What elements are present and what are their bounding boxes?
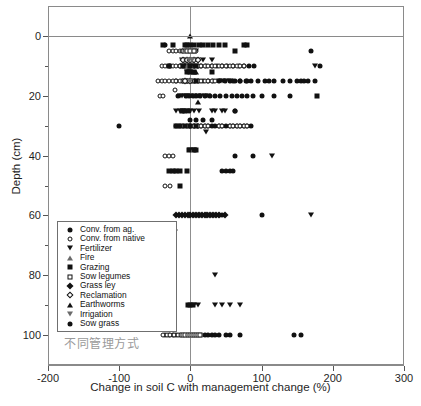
legend-marker-icon	[60, 281, 80, 290]
data-point	[212, 273, 218, 278]
data-point	[206, 123, 211, 128]
data-point	[201, 117, 206, 122]
data-point	[227, 303, 233, 308]
data-point	[259, 213, 264, 218]
legend-symbol	[66, 292, 73, 299]
data-point	[205, 93, 211, 98]
y-axis-tick	[43, 156, 48, 157]
data-point	[191, 48, 196, 53]
data-point	[252, 63, 257, 68]
legend-symbol	[67, 312, 73, 317]
legend-symbol	[68, 274, 73, 279]
data-point	[224, 93, 229, 98]
data-point	[184, 168, 189, 173]
legend-item[interactable]: Conv. from native	[60, 234, 173, 243]
legend-symbol	[67, 246, 73, 251]
y-axis-label: 0	[8, 30, 41, 42]
data-point	[203, 129, 209, 134]
data-point	[188, 123, 193, 128]
legend-item[interactable]: Sow grass	[60, 319, 173, 328]
data-point	[209, 57, 215, 62]
data-point	[172, 87, 177, 92]
data-point	[246, 63, 251, 68]
data-point	[161, 42, 166, 47]
data-point	[245, 78, 250, 83]
legend-symbol	[68, 265, 73, 270]
data-point	[212, 303, 218, 308]
data-point	[167, 63, 172, 68]
data-point	[212, 108, 218, 113]
data-point	[193, 69, 199, 74]
legend: Conv. from ag.Conv. from nativeFertilize…	[57, 221, 177, 332]
legend-item[interactable]: Sow legumes	[60, 272, 173, 281]
legend-marker-icon	[60, 244, 80, 253]
data-point	[245, 42, 250, 47]
data-point	[298, 333, 303, 338]
data-point	[312, 63, 318, 68]
data-point	[232, 48, 237, 53]
legend-item-label: Sow grass	[80, 319, 119, 328]
y-axis-tick-minor	[45, 245, 48, 246]
data-point	[219, 303, 225, 308]
data-point	[241, 63, 246, 68]
x-axis-tick	[190, 366, 191, 371]
data-point	[269, 153, 275, 158]
y-axis-title: Depth (cm)	[10, 106, 22, 226]
data-point	[182, 123, 187, 128]
data-point	[305, 78, 310, 83]
data-point	[239, 93, 244, 98]
y-axis-tick-minor	[45, 126, 48, 127]
data-point	[288, 78, 293, 83]
data-point	[189, 57, 195, 62]
data-point	[195, 99, 201, 104]
y-axis-tick	[43, 96, 48, 97]
data-point	[187, 78, 193, 83]
data-point	[209, 117, 214, 122]
legend-symbol	[67, 302, 73, 307]
legend-marker-icon	[60, 291, 80, 300]
data-point	[256, 78, 261, 83]
data-point	[259, 93, 264, 98]
legend-symbol	[66, 282, 73, 289]
data-point	[190, 303, 195, 308]
y-axis-label: 80	[8, 269, 41, 281]
scatter-plot-figure: 020406080100 -200-1000100200300 Change i…	[0, 0, 421, 406]
y-axis-label: 20	[8, 90, 41, 102]
data-point	[168, 183, 173, 188]
data-point	[280, 78, 285, 83]
legend-item[interactable]: Fire	[60, 253, 173, 262]
data-point	[266, 78, 271, 83]
legend-item[interactable]: Earthworms	[60, 300, 173, 309]
y-axis-tick	[43, 275, 48, 276]
data-point	[170, 42, 175, 47]
legend-marker-icon	[60, 263, 80, 272]
data-point	[238, 333, 243, 338]
data-point	[117, 123, 122, 128]
data-point	[186, 108, 191, 113]
data-point	[238, 78, 243, 83]
data-point	[245, 123, 250, 128]
y-axis-tick	[43, 335, 48, 336]
data-point	[232, 108, 237, 113]
legend-symbol	[68, 227, 73, 232]
data-point	[198, 333, 203, 338]
legend-marker-icon	[60, 225, 80, 234]
data-point	[272, 78, 277, 83]
x-axis-tick	[48, 366, 49, 371]
legend-symbol	[68, 321, 73, 326]
data-point	[220, 123, 225, 128]
data-point	[317, 63, 322, 68]
data-point	[227, 333, 232, 338]
legend-item[interactable]: Fertilizer	[60, 244, 173, 253]
data-point	[232, 153, 237, 158]
x-axis-line	[48, 365, 404, 366]
legend-marker-icon	[60, 319, 80, 328]
x-axis-tick	[262, 366, 263, 371]
y-axis-label: 100	[8, 329, 41, 341]
y-axis-tick-minor	[45, 186, 48, 187]
legend-marker-icon	[60, 272, 80, 281]
data-point	[216, 42, 221, 47]
data-point	[288, 93, 293, 98]
y-axis-tick-minor	[45, 305, 48, 306]
data-point	[194, 78, 199, 83]
